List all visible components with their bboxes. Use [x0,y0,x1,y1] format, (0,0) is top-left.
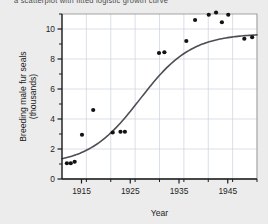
y-axis-title-line1: Breeding male fur seals [18,51,28,141]
y-tick-label: 2 [50,144,55,154]
scatter-point [65,161,69,165]
x-axis-major-ticks [82,179,228,184]
x-tick-label: 1925 [121,186,140,196]
fur-seal-scatter-chart: 0246810 1915192519351945 Year Breeding m… [0,0,268,224]
scatter-point [118,130,122,134]
x-tick-label: 1935 [170,186,189,196]
scatter-point [242,37,246,41]
y-tick-label: 6 [50,84,55,94]
scatter-point [162,50,166,54]
x-axis-title: Year [151,208,169,218]
y-axis-title-line2: (thousands) [28,74,38,120]
x-axis-tick-labels: 1915192519351945 [72,186,237,196]
scatter-point [226,13,230,17]
y-axis-tick-labels: 0246810 [46,24,56,184]
scatter-point [214,10,218,14]
scatter-point [111,130,115,134]
y-tick-label: 8 [50,54,55,64]
scatter-point [184,39,188,43]
y-tick-label: 10 [46,24,56,34]
y-tick-label: 0 [50,174,55,184]
x-tick-label: 1915 [72,186,91,196]
scatter-point [73,160,77,164]
scatter-point [80,133,84,137]
scatter-point [250,35,254,39]
scatter-point [69,161,73,165]
y-tick-label: 4 [50,114,55,124]
x-tick-label: 1945 [218,186,237,196]
figure-container: a scatterplot with fitted logistic growt… [0,0,268,224]
scatter-point [207,13,211,17]
scatter-point [220,20,224,24]
scatter-point [157,51,161,55]
scatter-point [123,130,127,134]
scatter-point [91,108,95,112]
scatter-point [193,18,197,22]
